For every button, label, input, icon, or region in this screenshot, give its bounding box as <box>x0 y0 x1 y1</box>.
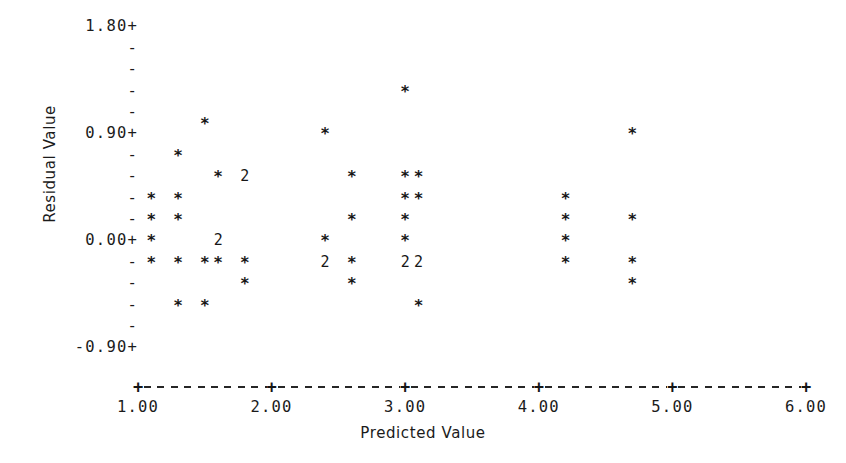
x-axis-tick-label: 4.00 <box>518 398 560 416</box>
data-point-marker: * <box>347 252 357 273</box>
data-point-count-marker: 2 <box>321 252 330 273</box>
data-point-marker: * <box>147 209 157 230</box>
plot-data-row: ** <box>0 123 846 144</box>
x-axis-dash-segment <box>678 386 801 388</box>
data-point-count-marker: 2 <box>401 252 410 273</box>
data-point-marker: * <box>173 188 183 209</box>
data-point-marker: * <box>240 273 250 294</box>
x-axis-tick-label: 1.00 <box>117 398 159 416</box>
data-point-count-marker: 2 <box>414 252 423 273</box>
data-point-marker: * <box>173 252 183 273</box>
plot-data-row: *****2*22** <box>0 252 846 273</box>
data-point-marker: * <box>347 166 357 187</box>
data-point-marker: * <box>627 252 637 273</box>
plot-data-row: *2*** <box>0 230 846 251</box>
data-point-marker: * <box>320 230 330 251</box>
data-point-marker: * <box>240 252 250 273</box>
data-point-marker: * <box>213 166 223 187</box>
data-point-marker: * <box>173 145 183 166</box>
plot-data-row: *** <box>0 273 846 294</box>
data-point-count-marker: 2 <box>240 166 249 187</box>
data-point-marker: * <box>147 252 157 273</box>
data-point-marker: * <box>320 123 330 144</box>
data-point-marker: * <box>400 81 410 102</box>
data-point-marker: * <box>400 166 410 187</box>
data-point-marker: * <box>414 295 424 316</box>
x-axis-tick-label: 3.00 <box>384 398 426 416</box>
x-axis-dash-segment <box>278 386 401 388</box>
data-point-marker: * <box>414 188 424 209</box>
data-point-marker: * <box>400 209 410 230</box>
x-axis-tick-mark: + <box>133 379 143 395</box>
data-point-marker: * <box>347 209 357 230</box>
data-point-marker: * <box>347 273 357 294</box>
plot-data-row: *** <box>0 295 846 316</box>
x-axis-tick-label: 6.00 <box>785 398 827 416</box>
plot-data-row: * <box>0 145 846 166</box>
data-point-marker: * <box>147 188 157 209</box>
plot-data-row: *2*** <box>0 166 846 187</box>
data-point-count-marker: 2 <box>214 230 223 251</box>
data-point-marker: * <box>213 252 223 273</box>
x-axis-title: Predicted Value <box>0 424 846 442</box>
data-point-marker: * <box>400 230 410 251</box>
x-axis-tick-mark: + <box>667 379 677 395</box>
x-axis-tick-label: 2.00 <box>251 398 293 416</box>
x-axis-dash-segment <box>144 386 267 388</box>
data-point-marker: * <box>561 252 571 273</box>
x-axis-tick-mark: + <box>534 379 544 395</box>
data-point-marker: * <box>414 166 424 187</box>
residual-plot: Residual Value 1.80+----0.90+----0.00+--… <box>0 0 846 463</box>
data-point-marker: * <box>627 273 637 294</box>
x-axis-tick-mark: + <box>801 379 811 395</box>
data-point-marker: * <box>173 295 183 316</box>
plot-data-row: * <box>0 81 846 102</box>
x-axis-tick-mark: + <box>266 379 276 395</box>
plot-data-row: ***** <box>0 188 846 209</box>
data-point-marker: * <box>561 188 571 209</box>
data-point-marker: * <box>561 209 571 230</box>
data-point-marker: * <box>627 209 637 230</box>
plot-data-row: ****** <box>0 209 846 230</box>
data-point-marker: * <box>627 123 637 144</box>
data-point-marker: * <box>200 295 210 316</box>
data-point-marker: * <box>147 230 157 251</box>
x-axis-dash-segment <box>411 386 534 388</box>
x-axis-tick-label: 5.00 <box>651 398 693 416</box>
x-axis-dash-segment <box>545 386 668 388</box>
x-axis-tick-mark: + <box>400 379 410 395</box>
data-point-marker: * <box>200 252 210 273</box>
data-point-marker: * <box>173 209 183 230</box>
plot-data-area: ******2***************2********2*22*****… <box>0 17 846 362</box>
x-axis-line: ++++++ <box>0 379 846 395</box>
data-point-marker: * <box>400 188 410 209</box>
data-point-marker: * <box>561 230 571 251</box>
